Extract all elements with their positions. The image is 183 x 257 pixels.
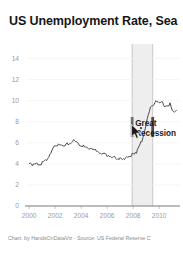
x-axis-tick-label: 2000	[22, 212, 37, 219]
x-axis-tick-label: 2008	[126, 212, 141, 219]
y-axis-tick-label: 0	[15, 202, 19, 209]
y-axis-tick-label: 4	[15, 160, 19, 167]
band-label-line2: Recession	[135, 129, 176, 138]
band-left-handle[interactable]	[131, 117, 134, 137]
unemployment-line-chart[interactable]: 02468101214 200020022004200620082010 Gre…	[0, 40, 183, 230]
x-axis-tick-label: 2004	[74, 212, 89, 219]
chart-page: US Unemployment Rate, Sea 02468101214 20…	[0, 0, 183, 257]
x-axis-tick-label: 2010	[152, 212, 167, 219]
y-axis-tick-label: 10	[12, 97, 20, 104]
x-axis-ticks: 200020022004200620082010	[22, 206, 167, 219]
band-label-line1: Great	[135, 119, 157, 128]
x-axis-tick-label: 2002	[48, 212, 63, 219]
y-axis-tick-label: 2	[15, 181, 19, 188]
y-axis-tick-label: 6	[15, 139, 19, 146]
x-axis-tick-label: 2006	[100, 212, 115, 219]
y-axis-tick-label: 12	[12, 76, 20, 83]
page-title: US Unemployment Rate, Sea	[9, 14, 183, 29]
chart-source-footer: Chart: by HandsOnDataViz · Source: US Fe…	[8, 234, 183, 242]
y-axis-tick-label: 8	[15, 118, 19, 125]
chart-plot-area[interactable]: 02468101214 200020022004200620082010 Gre…	[0, 40, 183, 230]
y-axis-tick-label: 14	[12, 55, 20, 62]
